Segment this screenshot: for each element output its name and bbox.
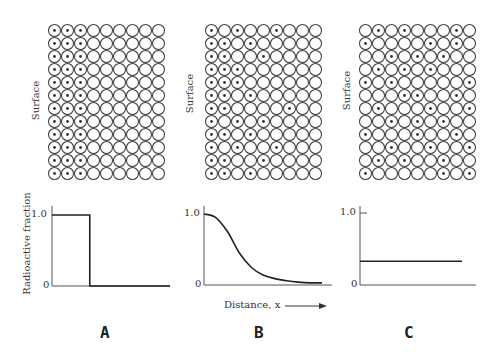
ytick-0-c: 0	[351, 278, 357, 289]
x-axis-label: Distance, x	[224, 299, 327, 311]
plot-c	[0, 0, 499, 300]
plot-c-svg	[0, 0, 499, 300]
panel-letter-b: B	[254, 323, 264, 342]
right-arrow-icon	[283, 301, 327, 311]
x-axis-label-text: Distance, x	[224, 299, 280, 310]
panel-letter-a: A	[100, 323, 110, 342]
ytick-1-c: 1.0	[340, 206, 356, 217]
panel-letter-c: C	[404, 323, 414, 342]
